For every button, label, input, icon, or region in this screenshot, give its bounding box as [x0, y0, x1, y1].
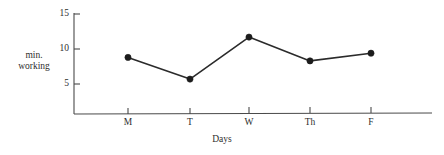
- data-point-th: [307, 58, 313, 64]
- data-point-t: [187, 76, 193, 82]
- line-chart-figure: min. working 15 10 5 M T W Th F Days: [0, 0, 444, 155]
- data-series-group: [125, 34, 374, 82]
- y-axis-label-line2: working: [8, 61, 60, 72]
- x-tick-label-m: M: [113, 118, 143, 128]
- y-tick-label-10: 10: [48, 44, 69, 54]
- data-point-w: [246, 34, 252, 40]
- series-line-min-working: [128, 37, 371, 79]
- x-tick-label-th: Th: [295, 118, 325, 128]
- x-axis-label: Days: [0, 135, 444, 145]
- x-tick-label-f: F: [356, 118, 386, 128]
- data-point-m: [125, 54, 131, 60]
- axes-group: [74, 13, 432, 114]
- y-tick-label-15: 15: [48, 9, 69, 19]
- data-point-f: [368, 50, 374, 56]
- x-tick-label-t: T: [175, 118, 205, 128]
- y-tick-label-5: 5: [48, 79, 69, 89]
- x-tick-label-w: W: [234, 118, 264, 128]
